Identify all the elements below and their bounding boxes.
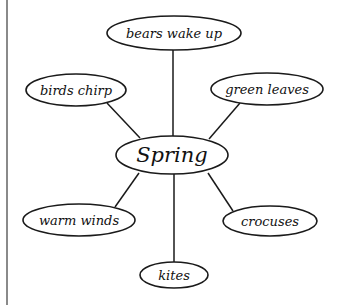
node-label: bears wake up — [126, 26, 223, 41]
node-green-leaves: green leaves — [211, 73, 323, 105]
node-warm-winds: warm winds — [23, 204, 135, 236]
node-label: kites — [158, 268, 190, 283]
node-kites: kites — [140, 262, 208, 288]
edge-birds — [107, 103, 140, 138]
node-crocuses: crocuses — [223, 206, 317, 236]
concept-map-canvas: bears wake up birds chirp green leaves S… — [0, 0, 337, 305]
node-label: crocuses — [241, 214, 299, 229]
node-label: green leaves — [225, 82, 309, 97]
edge-winds — [115, 173, 139, 207]
node-bears-wake-up: bears wake up — [107, 16, 241, 50]
node-label: birds chirp — [40, 83, 113, 98]
center-label: Spring — [136, 143, 208, 167]
edge-leaves — [209, 103, 240, 139]
node-spring-center: Spring — [116, 136, 228, 174]
node-birds-chirp: birds chirp — [26, 74, 126, 106]
concept-map-svg: bears wake up birds chirp green leaves S… — [0, 0, 337, 305]
node-label: warm winds — [39, 213, 120, 228]
edge-crocuses — [208, 173, 233, 211]
